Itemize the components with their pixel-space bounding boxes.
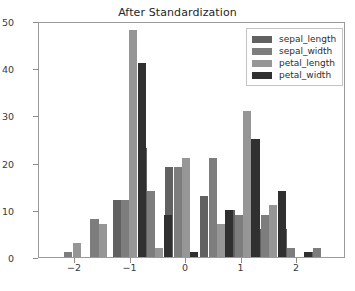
legend-item: sepal_width	[252, 45, 336, 57]
bar	[278, 191, 286, 257]
y-axis-tick-label: 50	[0, 17, 14, 28]
x-axis-tick-label: 1	[221, 262, 261, 273]
y-axis-tick-label: 0	[0, 253, 14, 264]
legend-label: petal_width	[279, 70, 331, 80]
x-axis-tick-label: −2	[54, 262, 94, 273]
legend-item: petal_width	[252, 69, 336, 81]
x-axis-tick-mark	[296, 258, 297, 263]
x-axis-tick-mark	[74, 258, 75, 263]
bar	[121, 200, 129, 257]
bar	[113, 200, 121, 257]
x-axis-tick-label: 2	[276, 262, 316, 273]
legend-swatch	[252, 72, 272, 79]
bar	[313, 248, 321, 257]
bar	[225, 210, 233, 257]
bar	[64, 252, 72, 257]
chart-title: After Standardization	[0, 6, 355, 19]
x-axis-tick-mark	[185, 258, 186, 263]
bar	[200, 196, 208, 257]
x-axis-tick-label: 0	[165, 262, 205, 273]
bar	[73, 243, 81, 257]
bar	[190, 252, 198, 257]
chart-figure: After Standardization 01020304050 −2−101…	[0, 0, 355, 291]
bar	[155, 248, 163, 257]
bar	[287, 248, 295, 257]
bar	[304, 252, 312, 257]
legend-label: sepal_length	[279, 34, 336, 44]
y-axis-tick-mark	[33, 258, 38, 259]
bar	[99, 224, 107, 257]
bar	[269, 205, 277, 257]
bar	[129, 30, 137, 257]
bar	[261, 215, 269, 257]
x-axis-tick-label: −1	[110, 262, 150, 273]
legend-swatch	[252, 48, 272, 55]
y-axis-tick-label: 40	[0, 64, 14, 75]
x-axis-tick-mark	[130, 258, 131, 263]
y-axis-tick-label: 30	[0, 111, 14, 122]
bar	[147, 191, 155, 257]
bar	[217, 224, 225, 257]
legend-label: petal_length	[279, 58, 335, 68]
bar	[251, 139, 259, 257]
legend-label: sepal_width	[279, 46, 332, 56]
bar	[235, 215, 243, 257]
bar	[138, 63, 146, 257]
legend-swatch	[252, 36, 272, 43]
legend-swatch	[252, 60, 272, 67]
x-axis-tick-mark	[241, 258, 242, 263]
bar	[243, 111, 251, 257]
bar	[174, 167, 182, 257]
y-axis-tick-label: 20	[0, 158, 14, 169]
legend-item: sepal_length	[252, 33, 336, 45]
legend-item: petal_length	[252, 57, 336, 69]
bar	[209, 158, 217, 257]
bar	[164, 215, 172, 257]
bar	[90, 219, 98, 257]
chart-legend: sepal_lengthsepal_widthpetal_lengthpetal…	[246, 28, 343, 86]
y-axis-tick-label: 10	[0, 205, 14, 216]
bar	[182, 158, 190, 257]
